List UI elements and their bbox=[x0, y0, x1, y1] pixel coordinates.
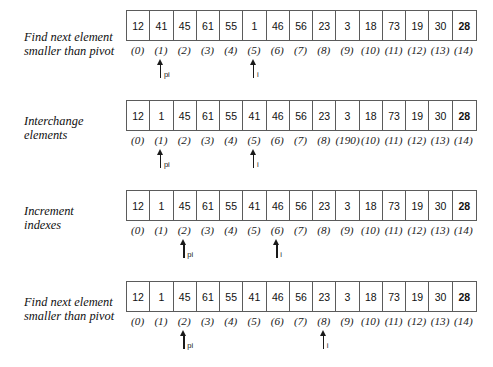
array-cell: 18 bbox=[360, 282, 383, 311]
array-cell: 12 bbox=[127, 101, 150, 130]
index-label: (13) bbox=[428, 224, 451, 236]
index-label: (9) bbox=[335, 44, 358, 56]
index-label: (13) bbox=[428, 44, 451, 56]
array-row: 1241456155146562331873193028 bbox=[126, 10, 477, 41]
array-cell: 56 bbox=[290, 191, 313, 220]
array-cell: 19 bbox=[406, 191, 429, 220]
array-cell: 3 bbox=[336, 11, 359, 40]
arrow-shaft bbox=[160, 63, 161, 78]
array-cell: 28 bbox=[453, 282, 476, 311]
pointer-label: i bbox=[257, 160, 259, 169]
arrow-head-up-icon bbox=[320, 330, 326, 336]
index-label: (3) bbox=[196, 224, 219, 236]
array-cell: 30 bbox=[429, 282, 452, 311]
index-label: (8) bbox=[312, 224, 335, 236]
array-row: 1214561554146562331873193028 bbox=[126, 190, 477, 221]
arrow-shaft bbox=[160, 153, 161, 168]
step-caption: Find next elementsmaller than pivot bbox=[24, 31, 124, 58]
array-cell: 19 bbox=[406, 282, 429, 311]
array-cell: 30 bbox=[429, 101, 452, 130]
pointer-label: pi bbox=[187, 250, 193, 259]
index-label: (9) bbox=[335, 315, 358, 327]
arrow-shaft bbox=[183, 243, 184, 258]
index-label: (3) bbox=[196, 315, 219, 327]
arrow-head-up-icon bbox=[250, 59, 256, 65]
step-caption-line-1: Increment bbox=[24, 205, 124, 219]
index-label: (8) bbox=[312, 315, 335, 327]
array-cell: 1 bbox=[243, 11, 266, 40]
index-label: (4) bbox=[219, 315, 242, 327]
index-label: (3) bbox=[196, 134, 219, 146]
index-label: (12) bbox=[405, 315, 428, 327]
array-cell: 46 bbox=[267, 101, 290, 130]
index-label-row: (0)(1)(2)(3)(4)(5)(6)(7)(8)(9)(10)(11)(1… bbox=[126, 224, 475, 236]
index-label: (12) bbox=[405, 134, 428, 146]
array-cell: 3 bbox=[336, 191, 359, 220]
pointer-pi-icon: pi bbox=[178, 241, 218, 263]
index-label: (14) bbox=[452, 134, 475, 146]
array-cell: 28 bbox=[453, 101, 476, 130]
array-cell: 73 bbox=[383, 101, 406, 130]
index-label: (7) bbox=[289, 134, 312, 146]
index-label: (10) bbox=[359, 315, 382, 327]
array-cell: 61 bbox=[197, 282, 220, 311]
step-caption-line-1: Interchange bbox=[24, 115, 124, 129]
arrow-shaft bbox=[183, 334, 184, 349]
step-caption-line-1: Find next element bbox=[24, 296, 124, 310]
array-cell: 41 bbox=[150, 11, 173, 40]
index-label: (5) bbox=[242, 134, 265, 146]
array-cell: 56 bbox=[290, 11, 313, 40]
index-label: (0) bbox=[126, 224, 149, 236]
step-caption-line-1: Find next element bbox=[24, 31, 124, 45]
array-cell: 12 bbox=[127, 11, 150, 40]
array-cell: 45 bbox=[174, 101, 197, 130]
arrow-head-up-icon bbox=[157, 59, 163, 65]
array-cell: 18 bbox=[360, 191, 383, 220]
index-label: (5) bbox=[242, 315, 265, 327]
index-label: (6) bbox=[266, 134, 289, 146]
index-label: (10) bbox=[359, 44, 382, 56]
arrow-shaft bbox=[276, 243, 277, 258]
index-label: (8) bbox=[312, 44, 335, 56]
pointer-pi-icon: pi bbox=[155, 151, 195, 173]
array-cell: 45 bbox=[174, 282, 197, 311]
array-cell: 46 bbox=[267, 191, 290, 220]
array-cell: 61 bbox=[197, 101, 220, 130]
array-cell: 45 bbox=[174, 191, 197, 220]
array-cell: 28 bbox=[453, 191, 476, 220]
arrow-shaft bbox=[253, 153, 254, 168]
index-label: (1) bbox=[149, 134, 172, 146]
index-label: (1) bbox=[149, 44, 172, 56]
array-cell: 12 bbox=[127, 282, 150, 311]
array-cell: 1 bbox=[150, 191, 173, 220]
index-label: (7) bbox=[289, 44, 312, 56]
array-cell: 41 bbox=[243, 282, 266, 311]
array-cell: 18 bbox=[360, 101, 383, 130]
index-label: (190) bbox=[335, 134, 358, 146]
array-cell: 23 bbox=[313, 101, 336, 130]
index-label-row: (0)(1)(2)(3)(4)(5)(6)(7)(8)(190)(10)(11)… bbox=[126, 134, 475, 146]
array-cell: 61 bbox=[197, 191, 220, 220]
array-cell: 55 bbox=[220, 11, 243, 40]
index-label: (2) bbox=[173, 44, 196, 56]
arrow-head-up-icon bbox=[180, 330, 186, 336]
index-label: (7) bbox=[289, 224, 312, 236]
index-label: (5) bbox=[242, 44, 265, 56]
arrow-head-up-icon bbox=[250, 149, 256, 155]
index-label: (4) bbox=[219, 44, 242, 56]
quicksort-partition-diagram: Find next elementsmaller than pivot12414… bbox=[0, 0, 493, 367]
index-label: (13) bbox=[428, 134, 451, 146]
array-cell: 1 bbox=[150, 101, 173, 130]
step-caption: Find next elementsmaller than pivot bbox=[24, 296, 124, 323]
array-cell: 73 bbox=[383, 282, 406, 311]
array-cell: 56 bbox=[290, 282, 313, 311]
array-cell: 23 bbox=[313, 282, 336, 311]
index-label: (7) bbox=[289, 315, 312, 327]
index-label: (12) bbox=[405, 44, 428, 56]
array-cell: 19 bbox=[406, 101, 429, 130]
index-label: (4) bbox=[219, 134, 242, 146]
index-label: (11) bbox=[382, 224, 405, 236]
array-cell: 23 bbox=[313, 11, 336, 40]
index-label: (11) bbox=[382, 44, 405, 56]
pointer-label: pi bbox=[164, 160, 170, 169]
